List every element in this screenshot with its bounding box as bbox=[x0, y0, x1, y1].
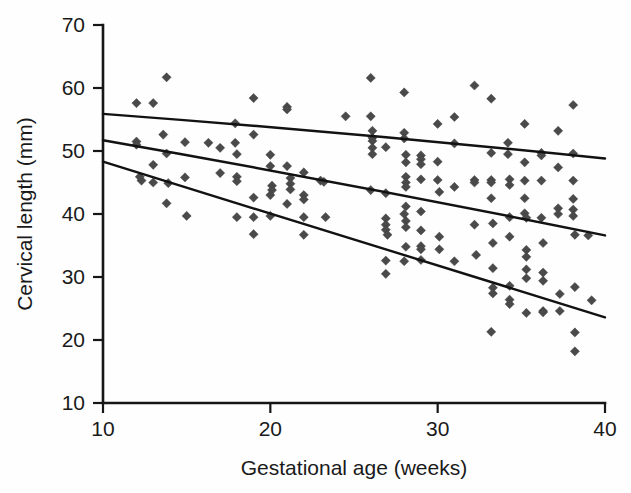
y-tick-label-20: 20 bbox=[62, 328, 85, 351]
x-axis-title: Gestational age (weeks) bbox=[241, 456, 467, 479]
y-tick-label-10: 10 bbox=[62, 391, 85, 414]
x-tick-label-20: 20 bbox=[259, 417, 282, 440]
y-tick-label-50: 50 bbox=[62, 139, 85, 162]
y-tick-label-60: 60 bbox=[62, 76, 85, 99]
y-tick-label-40: 40 bbox=[62, 202, 85, 225]
figure-container: 1020304050607010203040 Gestational age (… bbox=[0, 0, 631, 493]
x-tick-label-30: 30 bbox=[426, 417, 449, 440]
x-tick-label-10: 10 bbox=[91, 417, 114, 440]
x-tick-label-40: 40 bbox=[593, 417, 616, 440]
y-tick-label-30: 30 bbox=[62, 265, 85, 288]
y-axis-title: Cervical length (mm) bbox=[13, 117, 36, 311]
y-tick-label-70: 70 bbox=[62, 13, 85, 36]
scatter-plot: 1020304050607010203040 Gestational age (… bbox=[0, 0, 631, 493]
